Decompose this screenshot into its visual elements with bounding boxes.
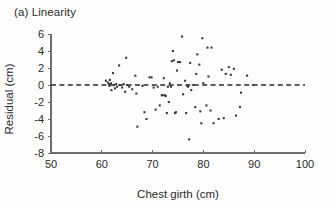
data-point	[192, 84, 194, 86]
data-point	[171, 60, 173, 62]
data-point	[209, 109, 211, 111]
x-axis-title: Chest girth (cm)	[137, 188, 219, 200]
data-point	[136, 126, 138, 128]
data-point	[121, 87, 123, 89]
y-tick-label: -2	[34, 96, 44, 108]
data-point	[125, 57, 127, 59]
data-point	[246, 75, 248, 77]
y-tick-label: -4	[34, 113, 44, 125]
data-point	[159, 104, 161, 106]
data-point	[149, 76, 151, 78]
data-point	[124, 91, 126, 93]
y-axis-tick-labels: -8-6-4-20246	[34, 28, 44, 159]
data-point	[213, 122, 215, 124]
data-point	[108, 85, 110, 87]
data-point	[218, 118, 220, 120]
data-point	[230, 74, 232, 76]
data-point	[233, 68, 235, 70]
data-point	[110, 89, 112, 91]
data-point	[168, 101, 170, 103]
y-tick-label: 4	[38, 45, 44, 57]
data-point	[119, 84, 121, 86]
data-point	[110, 82, 112, 84]
data-point	[196, 53, 198, 55]
data-point	[112, 72, 114, 74]
data-point	[118, 64, 120, 66]
data-point	[135, 92, 137, 94]
x-tick-label: 100	[296, 158, 314, 170]
data-point	[200, 122, 202, 124]
data-point	[105, 80, 107, 82]
data-point	[228, 66, 230, 68]
data-point	[205, 104, 207, 106]
y-axis-title: Residual (cm)	[3, 63, 15, 134]
data-point	[157, 86, 159, 88]
data-point	[128, 86, 130, 88]
data-point	[126, 84, 128, 86]
x-axis-tick-labels: 5060708090100	[45, 158, 314, 170]
data-point	[143, 111, 145, 113]
data-point	[198, 64, 200, 66]
data-point	[131, 88, 133, 90]
data-point	[182, 93, 184, 95]
data-point	[207, 75, 209, 77]
data-point	[113, 84, 115, 86]
data-point	[184, 80, 186, 82]
data-point	[235, 115, 237, 117]
data-point	[162, 94, 164, 96]
data-point	[190, 89, 192, 91]
data-point	[225, 73, 227, 75]
data-point	[176, 70, 178, 72]
data-point	[155, 109, 157, 111]
data-point	[240, 92, 242, 94]
data-point	[151, 76, 153, 78]
data-point	[116, 86, 118, 88]
data-point	[202, 82, 204, 84]
y-tick-label: -8	[34, 147, 44, 159]
y-tick-label: 0	[38, 79, 44, 91]
data-point	[134, 75, 136, 77]
data-point	[239, 106, 241, 108]
data-point	[173, 59, 175, 61]
x-tick-label: 70	[146, 158, 158, 170]
data-point	[206, 47, 208, 49]
y-tick-label: 6	[38, 28, 44, 40]
data-points	[105, 36, 254, 141]
y-tick-label: 2	[38, 62, 44, 74]
plot-axes	[48, 34, 306, 153]
data-point	[252, 84, 254, 86]
data-point	[115, 83, 117, 85]
data-point	[181, 36, 183, 38]
x-tick-label: 50	[45, 158, 57, 170]
data-point	[210, 47, 212, 49]
data-point	[153, 87, 155, 89]
data-point	[172, 50, 174, 52]
data-point	[169, 82, 171, 84]
data-point	[123, 83, 125, 85]
figure-panel: (a) Linearity -8-6-4-20246 5060708090100…	[0, 0, 331, 204]
data-point	[109, 79, 111, 81]
data-point	[187, 86, 189, 88]
data-point	[114, 87, 116, 89]
data-point	[223, 117, 225, 119]
data-point	[145, 118, 147, 120]
y-tick-label: -6	[34, 130, 44, 142]
data-point	[189, 62, 191, 64]
data-point	[221, 69, 223, 71]
data-point	[201, 37, 203, 39]
data-point	[179, 61, 181, 63]
data-point	[163, 77, 165, 79]
data-point	[199, 110, 201, 112]
data-point	[188, 138, 190, 140]
x-tick-label: 80	[197, 158, 209, 170]
data-point	[175, 111, 177, 113]
data-point	[195, 73, 197, 75]
scatter-plot: -8-6-4-20246 5060708090100 Chest girth (…	[0, 0, 331, 204]
data-point	[165, 95, 167, 97]
x-tick-label: 90	[248, 158, 260, 170]
data-point	[167, 86, 169, 88]
data-point	[141, 85, 143, 87]
data-point	[170, 86, 172, 88]
data-point	[194, 106, 196, 108]
data-point	[166, 112, 168, 114]
